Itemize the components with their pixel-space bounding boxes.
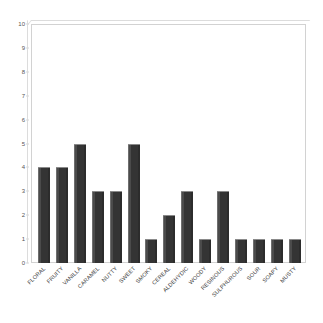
y-axis-tick-label: 1 [3, 236, 25, 242]
x-axis-label-slot: MUSTY [285, 264, 303, 322]
x-axis-label-slot: SOUR [249, 264, 267, 322]
bar-chart: 109876543210 FLORALFRUITYVANILLACARAMELN… [0, 0, 323, 323]
bar-column [177, 24, 195, 263]
bar [217, 191, 229, 263]
y-axis-tick-label: 6 [3, 117, 25, 123]
bar-column [141, 24, 159, 263]
y-axis-tick-mark [26, 47, 29, 48]
bar [56, 167, 68, 263]
x-axis-label: SOUR [246, 266, 262, 282]
bar [271, 239, 283, 263]
bar-column [34, 24, 52, 263]
bar-column [70, 24, 88, 263]
bar-column [159, 24, 177, 263]
x-axis-label-slot: CEREAL [159, 264, 177, 322]
bar-column [195, 24, 213, 263]
bar-column [52, 24, 70, 263]
y-axis-tick-label: 7 [3, 93, 25, 99]
y-axis-tick-mark [26, 167, 29, 168]
x-axis-label-slot: FRUITY [52, 264, 70, 322]
bar-column [213, 24, 231, 263]
bar [92, 191, 104, 263]
bar-column [124, 24, 142, 263]
y-axis-tick-mark [26, 95, 29, 96]
bar [289, 239, 301, 263]
y-axis-tick-mark [26, 263, 29, 264]
x-axis-label-slot: ALDEHYDIC [177, 264, 195, 322]
y-axis-tick-label: 5 [3, 141, 25, 147]
x-axis-label: FLORAL [27, 266, 47, 286]
y-axis-tick-mark [26, 71, 29, 72]
bar [38, 167, 50, 263]
bar-column [249, 24, 267, 263]
x-axis-label-slot: SWEET [124, 264, 142, 322]
x-axis-label-slot: VANILLA [70, 264, 88, 322]
bar [74, 144, 86, 264]
y-axis-tick-mark [26, 143, 29, 144]
y-axis-tick-label: 3 [3, 188, 25, 194]
y-axis-tick-mark [26, 215, 29, 216]
bar-column [285, 24, 303, 263]
x-axis-label-slot: FLORAL [34, 264, 52, 322]
y-axis-tick-mark [26, 119, 29, 120]
x-axis-label-slot: NUTTY [106, 264, 124, 322]
y-axis-tick-label: 9 [3, 45, 25, 51]
bar-column [106, 24, 124, 263]
bar [145, 239, 157, 263]
bar-column [267, 24, 285, 263]
y-axis: 109876543210 [0, 24, 29, 263]
bar [253, 239, 265, 263]
x-axis-category-labels: FLORALFRUITYVANILLACARAMELNUTTYSWEETSMOK… [31, 264, 306, 322]
x-axis-label-slot: CARAMEL [88, 264, 106, 322]
x-axis-label-slot: SMOKY [141, 264, 159, 322]
x-axis-label-slot: SOAPY [267, 264, 285, 322]
bar [163, 215, 175, 263]
y-axis-tick-mark [26, 191, 29, 192]
bar-column [231, 24, 249, 263]
y-axis-tick-label: 2 [3, 212, 25, 218]
y-axis-tick-label: 4 [3, 164, 25, 170]
y-axis-tick-label: 10 [3, 21, 25, 27]
bar [110, 191, 122, 263]
x-axis-label-slot: SULPHUROUS [231, 264, 249, 322]
bar-series [31, 24, 306, 263]
bar [199, 239, 211, 263]
bar-column [88, 24, 106, 263]
bar [128, 144, 140, 264]
y-axis-tick-mark [26, 239, 29, 240]
bar [181, 191, 193, 263]
y-axis-tick-mark [26, 24, 29, 25]
y-axis-tick-label: 8 [3, 69, 25, 75]
y-axis-tick-label: 0 [3, 260, 25, 266]
bar [235, 239, 247, 263]
